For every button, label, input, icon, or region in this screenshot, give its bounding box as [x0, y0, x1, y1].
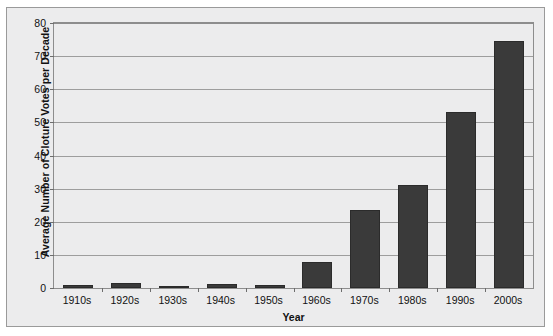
x-tick-mark: [198, 288, 199, 292]
x-tick-mark: [150, 288, 151, 292]
x-tick-mark: [294, 288, 295, 292]
bar-slot: [102, 23, 150, 288]
bar-slot: [198, 23, 246, 288]
bar[interactable]: [350, 210, 380, 288]
x-tick-mark: [246, 288, 247, 292]
chart-card: Average Number of Cloture Votes per Deca…: [6, 7, 545, 327]
bar-slot: [246, 23, 294, 288]
y-tick-label: 30: [18, 183, 46, 195]
y-tick-label: 70: [18, 50, 46, 62]
y-tick-label: 80: [18, 17, 46, 29]
x-tick-mark: [437, 288, 438, 292]
bar-chart-figure: Average Number of Cloture Votes per Deca…: [0, 0, 553, 336]
bar[interactable]: [494, 41, 524, 288]
y-tick-mark: [50, 288, 54, 289]
bar-slot: [389, 23, 437, 288]
bar[interactable]: [255, 285, 285, 288]
bar-slot: [437, 23, 485, 288]
bar-slot: [294, 23, 342, 288]
plot-area: 01020304050607080: [53, 22, 534, 289]
bar[interactable]: [159, 286, 189, 288]
bar[interactable]: [207, 284, 237, 288]
x-axis-title: Year: [53, 311, 534, 323]
bar[interactable]: [302, 262, 332, 289]
y-tick-label: 40: [18, 150, 46, 162]
bar[interactable]: [63, 285, 93, 288]
bar[interactable]: [398, 185, 428, 288]
bars-group: [54, 23, 533, 288]
x-tick-mark: [102, 288, 103, 292]
x-tick-label: 2000s: [478, 294, 538, 306]
y-tick-label: 10: [18, 249, 46, 261]
bar-slot: [54, 23, 102, 288]
bar[interactable]: [111, 283, 141, 288]
y-tick-label: 20: [18, 216, 46, 228]
bar-slot: [485, 23, 533, 288]
y-tick-label: 60: [18, 83, 46, 95]
x-tick-mark: [389, 288, 390, 292]
bar[interactable]: [446, 112, 476, 288]
y-tick-label: 0: [18, 282, 46, 294]
bar-slot: [341, 23, 389, 288]
bar-slot: [150, 23, 198, 288]
x-tick-mark: [341, 288, 342, 292]
x-tick-mark: [485, 288, 486, 292]
y-tick-label: 50: [18, 116, 46, 128]
